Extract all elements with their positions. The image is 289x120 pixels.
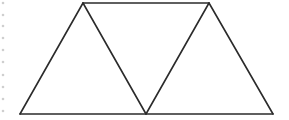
margin-dot <box>2 98 5 101</box>
edge-top_left-bottom_mid <box>83 3 146 114</box>
margin-dot <box>2 86 5 89</box>
margin-dot <box>2 110 5 113</box>
margin-dot <box>2 37 5 40</box>
edge-top_right-bottom_right <box>209 3 273 114</box>
triangle-trapezoid-diagram <box>0 0 289 120</box>
margin-dot <box>2 61 5 64</box>
margin-dot <box>2 14 5 17</box>
margin-dot <box>2 49 5 52</box>
margin-dot <box>2 2 5 5</box>
diagram-lines <box>20 3 273 114</box>
edge-bottom_left-top_left <box>20 3 83 114</box>
margin-dots <box>2 2 5 113</box>
margin-dot <box>2 74 5 77</box>
edge-bottom_mid-top_right <box>146 3 209 114</box>
margin-dot <box>2 25 5 28</box>
